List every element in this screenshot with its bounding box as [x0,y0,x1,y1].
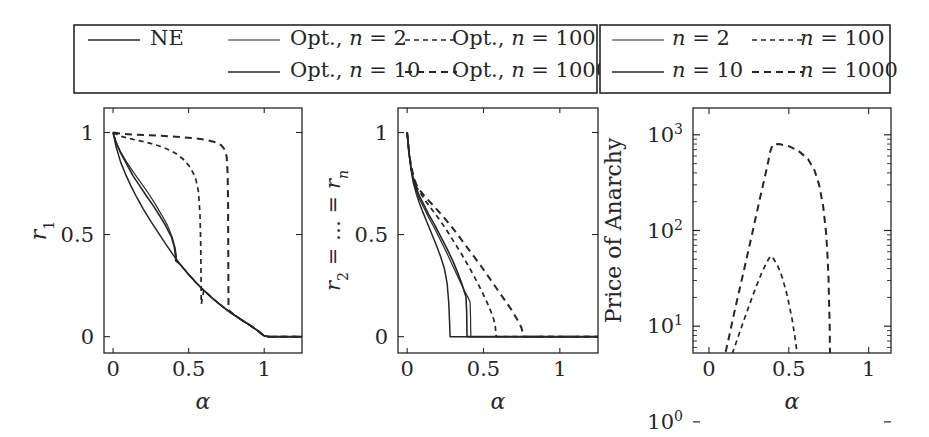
ytick-label: 102 [647,217,683,243]
xtick-label: 1 [258,357,271,381]
xtick-label: 0.5 [467,357,500,381]
legend-label-poa-n-10: n = 10 [672,58,743,82]
panel-r1-xlabel: α [196,389,211,414]
xtick-label: 1 [553,357,566,381]
legend-label-poa-n-1000: n = 1000 [800,58,898,82]
panel-rn: 00.5100.51α [355,108,598,414]
xtick-label: 0 [702,357,715,381]
ytick-label: 1 [375,121,388,145]
xtick-label: 0.5 [172,357,205,381]
panel-poa-xlabel: α [785,389,800,414]
legend-label-opt-n-100: Opt., n = 100 [452,26,596,50]
panel-poa-ylabel: Price of Anarchy [601,137,626,323]
ytick-label: 0.5 [61,223,94,247]
panel-poa-frame [693,108,891,353]
ytick-label: 101 [647,312,683,338]
legend-label-opt-n-10: Opt., n = 10 [290,58,420,82]
xtick-label: 0 [106,357,119,381]
legend-label-poa-n-100: n = 100 [800,26,885,50]
panel-rn-ylabel: r2 = … = rn [321,170,351,291]
panel-r1-frame [104,108,302,353]
ytick-label: 0 [81,325,94,349]
figure-container: NEOpt., n = 2Opt., n = 100Opt., n = 10Op… [0,0,929,437]
panel-r1: 00.5100.51α [61,108,302,414]
xtick-label: 0 [400,357,413,381]
ytick-label: 0.5 [355,223,388,247]
panel-rn-frame [398,108,598,353]
xtick-label: 0.5 [772,357,805,381]
panel-r1-ylabel: r1 [26,221,57,240]
xtick-label: 1 [862,357,875,381]
ytick-label: 100 [647,408,683,434]
ytick-label: 0 [375,325,388,349]
legend-label-poa-n-2: n = 2 [672,26,730,50]
panel-poa: 00.51100101102103α [647,108,891,434]
ytick-label: 103 [647,121,683,147]
legend-label-opt-n-2: Opt., n = 2 [290,26,407,50]
ytick-label: 1 [81,121,94,145]
panel-rn-xlabel: α [491,389,506,414]
legend-label-ne: NE [150,26,184,50]
legend-group: NEOpt., n = 2Opt., n = 100Opt., n = 10Op… [74,25,898,93]
multi-panel-figure: NEOpt., n = 2Opt., n = 100Opt., n = 10Op… [0,0,929,437]
legend-label-opt-n-1000: Opt., n = 1000 [452,58,609,82]
